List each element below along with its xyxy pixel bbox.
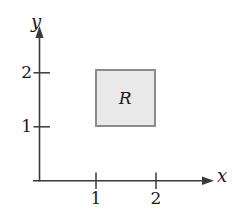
x-axis-tick-label-2: 2 (147, 190, 165, 207)
y-axis-tick-label-2: 2 (14, 64, 32, 81)
x-axis-arrowhead (202, 177, 214, 186)
y-axis-tick-label-1: 1 (14, 118, 32, 135)
x-axis-tick-label-1: 1 (87, 190, 105, 207)
y-axis-label: y (31, 13, 41, 31)
x-axis-label: x (217, 167, 227, 185)
region-label: R (97, 71, 154, 125)
region-rectangle: R (95, 69, 156, 127)
math-figure-region-r: R 2 1 1 2 y x (0, 0, 237, 223)
